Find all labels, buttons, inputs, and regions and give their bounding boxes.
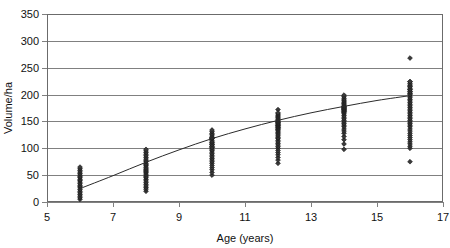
- x-tick-label: 5: [44, 211, 50, 223]
- y-tick-label: 300: [21, 35, 39, 47]
- y-tickmark-group: [42, 15, 47, 203]
- x-tick-label: 11: [239, 211, 250, 223]
- y-tick-label: 150: [21, 115, 39, 127]
- y-axis-tick-labels: 050100150200250300350: [21, 8, 39, 208]
- y-tick-label: 50: [27, 169, 39, 181]
- data-point: [408, 159, 413, 164]
- x-tick-label: 13: [305, 211, 317, 223]
- data-point: [408, 56, 413, 61]
- x-axis-tick-labels: 57911131517: [44, 211, 449, 223]
- y-tick-label: 100: [21, 142, 39, 154]
- y-tick-label: 0: [33, 196, 39, 208]
- gridline-group: [47, 15, 443, 203]
- x-tick-label: 15: [371, 211, 383, 223]
- x-tick-label: 17: [437, 211, 449, 223]
- y-tick-label: 350: [21, 8, 39, 20]
- x-axis-title: Age (years): [217, 232, 274, 244]
- y-tick-label: 250: [21, 62, 39, 74]
- plot-frame: [48, 15, 443, 202]
- x-tick-label: 9: [176, 211, 182, 223]
- x-tick-label: 7: [110, 211, 116, 223]
- chart-canvas: 050100150200250300350 57911131517 Age (y…: [0, 0, 450, 248]
- y-tick-label: 200: [21, 89, 39, 101]
- data-point: [342, 147, 347, 152]
- scatter-chart: 050100150200250300350 57911131517 Age (y…: [0, 0, 450, 248]
- y-axis-title: Volume/ha: [2, 81, 14, 134]
- trend-line: [80, 96, 410, 189]
